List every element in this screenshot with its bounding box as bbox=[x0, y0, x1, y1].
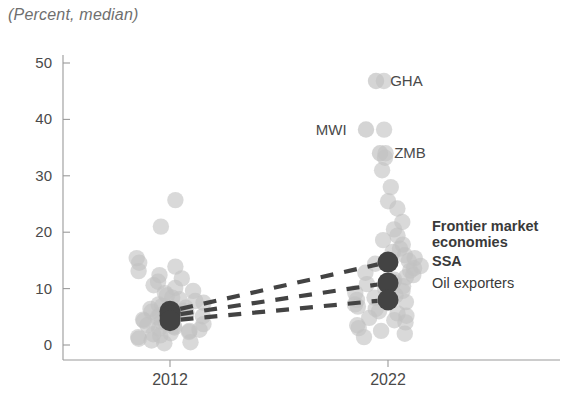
scatter-dot bbox=[182, 334, 198, 350]
x-tick-label-2012: 2012 bbox=[125, 371, 215, 389]
annotation-label-mwi: MWI bbox=[316, 121, 347, 138]
scatter-dot bbox=[130, 263, 146, 279]
scatter-dot bbox=[167, 192, 183, 208]
scatter-dot-annotated bbox=[372, 145, 388, 161]
y-tick-label: 20 bbox=[12, 223, 52, 240]
y-tick-label: 30 bbox=[12, 167, 52, 184]
annotation-label-zmb: ZMB bbox=[394, 144, 426, 161]
median-marker bbox=[160, 310, 181, 331]
y-tick-label: 10 bbox=[12, 280, 52, 297]
median-marker bbox=[378, 289, 399, 310]
series-label-oil-exporters: Oil exporters bbox=[432, 276, 514, 291]
annotation-label-gha: GHA bbox=[390, 72, 423, 89]
scatter-dot bbox=[376, 121, 392, 137]
y-tick-label: 40 bbox=[12, 110, 52, 127]
x-tick-label-2022: 2022 bbox=[343, 371, 433, 389]
series-label-frontier-market-economies: Frontier market economies bbox=[432, 219, 562, 250]
scatter-dot bbox=[383, 179, 399, 195]
chart-container: (Percent, median) 01020304050 20122022 G… bbox=[0, 0, 573, 401]
median-marker bbox=[378, 252, 399, 273]
scatter-dot bbox=[374, 162, 390, 178]
series-label-ssa: SSA bbox=[432, 254, 462, 269]
scatter-dot bbox=[397, 326, 413, 342]
scatter-dot bbox=[156, 335, 172, 351]
scatter-dot bbox=[373, 323, 389, 339]
scatter-dot-annotated bbox=[368, 73, 384, 89]
scatter-dot bbox=[153, 218, 169, 234]
y-tick-label: 50 bbox=[12, 54, 52, 71]
scatter-dot-annotated bbox=[358, 121, 374, 137]
plot-area bbox=[0, 0, 573, 401]
y-tick-label: 0 bbox=[12, 336, 52, 353]
scatter-dot bbox=[356, 329, 372, 345]
